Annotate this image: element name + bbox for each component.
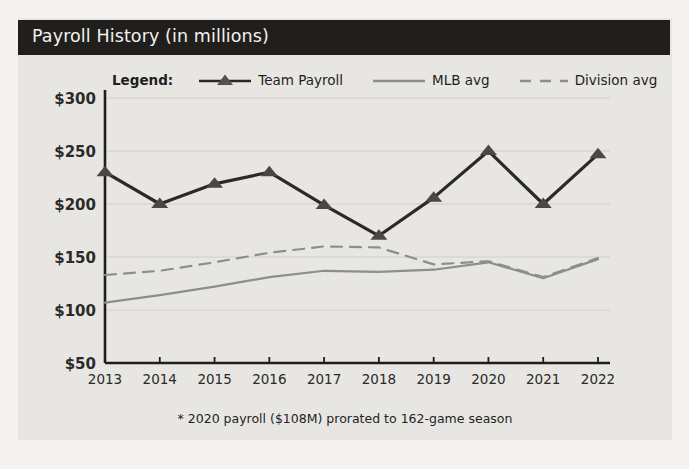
chart-axes <box>105 90 610 363</box>
x-tick-label: 2015 <box>197 371 231 387</box>
chart-series <box>97 144 607 302</box>
y-tick-label: $50 <box>65 355 96 373</box>
x-tick-label: 2014 <box>143 371 177 387</box>
series-line <box>105 259 598 302</box>
x-tick-label: 2016 <box>252 371 286 387</box>
data-point-marker <box>480 144 497 155</box>
y-tick-label: $300 <box>54 90 96 108</box>
y-tick-label: $150 <box>54 249 96 267</box>
data-point-marker <box>261 166 278 177</box>
data-point-marker <box>97 166 114 177</box>
x-tick-label: 2013 <box>88 371 122 387</box>
y-tick-label: $250 <box>54 143 96 161</box>
chart-gridlines <box>105 98 610 310</box>
series-line <box>105 246 598 277</box>
x-tick-label: 2019 <box>416 371 450 387</box>
data-point-marker <box>590 148 607 159</box>
chart-plot-area: $300$250$200$150$100$50 2013201420152016… <box>18 18 672 440</box>
payroll-history-chart: $300$250$200$150$100$50 2013201420152016… <box>18 18 672 440</box>
x-tick-label: 2018 <box>362 371 396 387</box>
x-tick-label: 2021 <box>526 371 560 387</box>
y-axis-tick-labels: $300$250$200$150$100$50 <box>54 90 96 373</box>
chart-footnote: * 2020 payroll ($108M) prorated to 162-g… <box>18 411 672 426</box>
y-tick-label: $100 <box>54 302 96 320</box>
x-tick-label: 2017 <box>307 371 341 387</box>
x-axis-tick-labels: 2013201420152016201720182019202020212022 <box>88 371 615 387</box>
y-tick-label: $200 <box>54 196 96 214</box>
series-line <box>105 151 598 236</box>
x-tick-label: 2022 <box>581 371 615 387</box>
x-tick-label: 2020 <box>471 371 505 387</box>
